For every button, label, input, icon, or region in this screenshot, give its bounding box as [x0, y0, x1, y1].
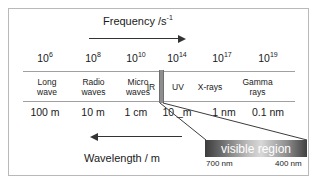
wavelength-tick-label: 0.1 nm [252, 106, 284, 118]
frequency-tick-exponent: 19 [270, 51, 278, 58]
frequency-axis-title-text: Frequency /s [103, 15, 167, 27]
spectrum-band-infrared: IR [141, 72, 161, 101]
wavelength-arrow-line [98, 136, 182, 137]
frequency-tick-mantissa: 10 [212, 52, 224, 64]
frequency-tick-exponent: 8 [97, 51, 101, 58]
visible-region-callout: visible region [205, 140, 307, 157]
visible-region-short-wavelength: 400 nm [275, 159, 302, 168]
spectrum-band-label: UV [172, 82, 184, 92]
spectrum-band-gamma-rays: Gammarays [230, 72, 285, 101]
spectrum-band-label-line2: wave [37, 87, 57, 97]
spectrum-band-label: X-rays [198, 82, 223, 92]
frequency-tick-mantissa: 10 [85, 52, 97, 64]
wavelength-tick-label: 10 _m [162, 106, 191, 118]
frequency-tick-mantissa: 10 [167, 52, 179, 64]
frequency-tick-label: 1014 [167, 51, 186, 64]
frequency-tick-exponent: 14 [179, 51, 187, 58]
visible-region-label: visible region [221, 142, 291, 156]
frequency-arrow-head-icon [178, 35, 186, 43]
spectrum-band-label: Gamma [242, 77, 272, 87]
spectrum-band-radio-waves: Radiowaves [71, 72, 116, 101]
frequency-tick-mantissa: 10 [37, 52, 49, 64]
frequency-tick-label: 106 [37, 51, 53, 64]
frequency-tick-label: 1010 [126, 51, 145, 64]
wavelength-tick-label: 1 nm [212, 106, 235, 118]
frequency-arrow-line [89, 38, 179, 39]
spectrum-band-label-line2: rays [249, 87, 265, 97]
spectrum-band-label: Radio [82, 77, 104, 87]
spectrum-band-long-wave: Longwave [23, 72, 71, 101]
frequency-tick-exponent: 6 [49, 51, 53, 58]
spectrum-band-label-line2: waves [81, 87, 105, 97]
frequency-tick-label: 108 [85, 51, 101, 64]
wavelength-tick-label: 1 cm [125, 106, 148, 118]
spectrum-band-ultraviolet: UV [166, 72, 190, 101]
wavelength-axis-title: Wavelength / m [84, 152, 160, 164]
frequency-tick-label: 1019 [258, 51, 277, 64]
electromagnetic-spectrum-figure: Frequency /s-1 1061081010101410171019 Lo… [0, 0, 319, 186]
wavelength-tick-label: 10 m [81, 106, 104, 118]
frequency-tick-label: 1017 [212, 51, 231, 64]
frequency-axis-exponent: -1 [167, 14, 173, 21]
wavelength-tick-label: 100 m [30, 106, 59, 118]
visible-light-sliver [159, 70, 164, 103]
frequency-tick-mantissa: 10 [258, 52, 270, 64]
spectrum-band-label: Long [38, 77, 57, 87]
frequency-tick-exponent: 10 [138, 51, 146, 58]
frequency-tick-exponent: 17 [224, 51, 232, 58]
spectrum-bar: LongwaveRadiowavesMicrowavesIRUVX-raysGa… [23, 71, 295, 102]
visible-region-long-wavelength: 700 nm [206, 159, 233, 168]
spectrum-band-label: IR [147, 82, 156, 92]
frequency-tick-mantissa: 10 [126, 52, 138, 64]
frequency-axis-title: Frequency /s-1 [103, 14, 173, 27]
wavelength-arrow-head-icon [90, 133, 98, 141]
spectrum-band-x-rays: X-rays [190, 72, 230, 101]
